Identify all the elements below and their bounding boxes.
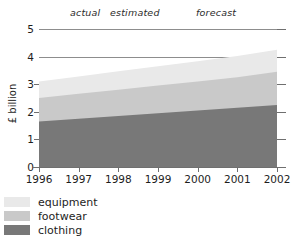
annotation-actual: actual	[70, 7, 100, 18]
x-tick-mark	[237, 167, 238, 172]
y-tick-label: 2	[20, 107, 34, 117]
legend-item-clothing[interactable]: clothing	[4, 223, 98, 237]
legend-item-equipment[interactable]: equipment	[4, 195, 98, 209]
legend-swatch-footwear	[4, 211, 30, 221]
y-tick-label: 4	[20, 52, 34, 62]
y-tick-mark-right	[277, 112, 286, 113]
x-axis-line	[33, 167, 286, 168]
y-tick-label: 3	[20, 79, 34, 89]
y-tick-label: 1	[20, 134, 34, 144]
y-tick-mark-right	[277, 84, 286, 85]
x-tick-label: 1997	[65, 173, 92, 185]
y-axis-label: £ billion	[7, 69, 18, 139]
legend-item-footwear[interactable]: footwear	[4, 209, 98, 223]
x-tick-mark	[277, 167, 278, 172]
x-tick-mark	[118, 167, 119, 172]
y-tick-mark-right	[277, 139, 286, 140]
y-tick-mark-right	[277, 57, 286, 58]
x-tick-label: 1999	[145, 173, 172, 185]
y-tick-label: 5	[20, 24, 34, 34]
legend-label-clothing: clothing	[38, 224, 82, 237]
y-tick-mark-right	[277, 29, 286, 30]
plot-area	[39, 29, 277, 167]
legend: equipmentfootwearclothing	[4, 195, 98, 237]
x-tick-mark	[198, 167, 199, 172]
x-tick-label: 2002	[264, 173, 291, 185]
legend-label-footwear: footwear	[38, 210, 87, 223]
y-tick-label: 0	[20, 162, 34, 172]
x-tick-mark	[79, 167, 80, 172]
x-tick-label: 1998	[105, 173, 132, 185]
annotation-forecast: forecast	[196, 7, 236, 18]
x-tick-mark	[158, 167, 159, 172]
legend-label-equipment: equipment	[38, 196, 98, 209]
x-tick-label: 2000	[184, 173, 211, 185]
x-tick-label: 1996	[26, 173, 53, 185]
legend-swatch-equipment	[4, 197, 30, 207]
stacked-area-chart: actual estimated forecast £ billion 5432…	[0, 0, 299, 240]
area-series-group	[39, 29, 277, 167]
x-tick-label: 2001	[224, 173, 251, 185]
x-tick-mark	[39, 167, 40, 172]
legend-swatch-clothing	[4, 225, 30, 235]
annotation-estimated: estimated	[110, 7, 160, 18]
